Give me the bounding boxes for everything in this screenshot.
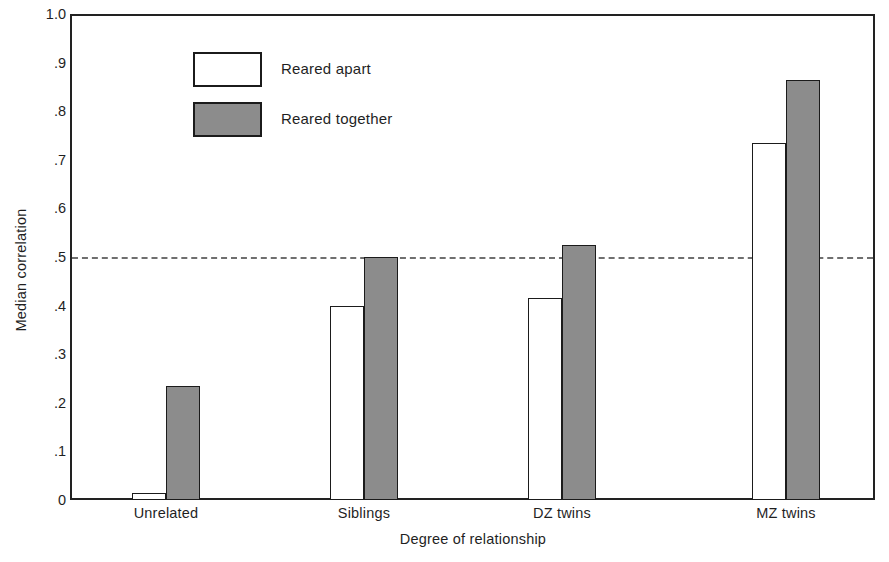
y-axis-tick-label: 0 <box>26 493 66 508</box>
bar <box>528 298 562 500</box>
x-axis-title: Degree of relationship <box>70 531 876 547</box>
legend-label: Reared together <box>281 110 392 127</box>
legend-swatch <box>193 102 262 137</box>
bar <box>364 257 398 500</box>
legend-label: Reared apart <box>281 60 371 77</box>
y-axis-tick-label: .9 <box>26 55 66 70</box>
bar <box>786 80 820 500</box>
y-axis-tick-label: .5 <box>26 250 66 265</box>
y-axis-tick-label: .7 <box>26 153 66 168</box>
y-axis-tick-label: .8 <box>26 104 66 119</box>
bar <box>132 493 166 500</box>
x-axis-tick-label: Siblings <box>338 505 390 521</box>
x-axis-tick-label: DZ twins <box>533 505 591 521</box>
x-axis-tick-label: Unrelated <box>134 505 199 521</box>
bar <box>166 386 200 500</box>
legend-swatch <box>193 52 262 87</box>
x-axis-tick-label: MZ twins <box>756 505 816 521</box>
y-axis-tick-label: .4 <box>26 298 66 313</box>
y-axis-tick-label: 1.0 <box>26 7 66 22</box>
bar <box>752 143 786 500</box>
bar <box>562 245 596 500</box>
bar <box>330 306 364 500</box>
y-axis-tick-label: .6 <box>26 201 66 216</box>
bar-chart: Median correlation 0.1.2.3.4.5.6.7.8.91.… <box>0 0 889 562</box>
y-axis-tick-labels: 0.1.2.3.4.5.6.7.8.91.0 <box>22 0 66 562</box>
y-axis-tick-label: .3 <box>26 347 66 362</box>
y-axis-tick-label: .2 <box>26 396 66 411</box>
y-axis-tick-label: .1 <box>26 444 66 459</box>
